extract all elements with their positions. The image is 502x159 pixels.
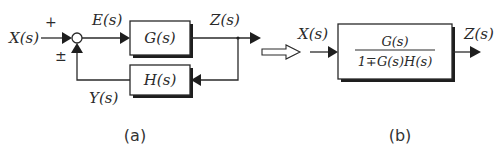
arrowhead-right-icon: [328, 46, 338, 58]
caption-a: (a): [124, 126, 146, 145]
feedback-sign: ±: [55, 48, 67, 64]
output-label-b: Z(s): [463, 25, 494, 43]
diagram-b: X(s) G(s) 1∓G(s)H(s) Z(s) (b): [297, 24, 494, 145]
input-label-a: X(s): [8, 29, 39, 47]
arrowhead-right-icon: [250, 32, 261, 44]
arrowhead-up-icon: [71, 43, 83, 53]
closed-loop-block: [338, 24, 452, 79]
forward-block-label: G(s): [144, 29, 176, 47]
transfer-denominator: 1∓G(s)H(s): [358, 54, 433, 69]
feedback-path-right: [198, 38, 238, 80]
error-label: E(s): [91, 11, 122, 29]
caption-b: (b): [389, 126, 412, 145]
input-label-b: X(s): [297, 25, 328, 43]
feedback-path-left: [77, 50, 130, 80]
feedback-block-label: H(s): [143, 71, 177, 89]
summing-junction: [72, 33, 82, 43]
block-diagram-canvas: X(s) + ± E(s) G(s) Z(s) H(s): [0, 0, 502, 159]
output-label-a: Z(s): [209, 11, 240, 29]
arrowhead-right-icon: [62, 32, 72, 44]
transfer-numerator: G(s): [381, 34, 408, 49]
arrowhead-right-icon: [120, 32, 130, 44]
arrowhead-right-icon: [470, 46, 481, 58]
equivalence-arrow-icon: [262, 45, 300, 59]
feedback-signal-label: Y(s): [89, 89, 118, 107]
diagram-a: X(s) + ± E(s) G(s) Z(s) H(s): [8, 11, 261, 145]
plus-sign: +: [45, 14, 57, 30]
